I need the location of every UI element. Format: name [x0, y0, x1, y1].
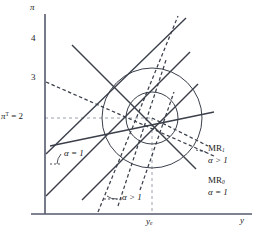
mr0-line: [72, 45, 196, 169]
figure-canvas: π 4 3 πT = 2 ye y α = 1 α > 1 MR1 α > 1 …: [0, 0, 256, 231]
mr0-subscript: 0: [222, 179, 225, 185]
pi-target-label: πT = 2: [1, 112, 23, 121]
mr0-label: MR0: [208, 176, 225, 186]
mr1-subscript: 1: [222, 147, 225, 153]
pc-mid: [46, 18, 186, 154]
mr0-condition: α = 1: [208, 188, 228, 197]
mr1-name: MR: [208, 143, 222, 153]
mr0-name: MR: [208, 175, 222, 185]
mr1-condition: α > 1: [208, 156, 228, 165]
alpha-eq-1-annotation: α = 1: [64, 149, 84, 158]
ye-subscript: e: [150, 220, 152, 226]
x-tick-ye: ye: [146, 217, 152, 227]
ad-line: [50, 112, 214, 146]
pi-axis-label: π: [30, 3, 35, 12]
mr1-label: MR1: [208, 144, 225, 154]
pc-low-1: [46, 52, 190, 196]
alpha-eq-1-text: α = 1: [64, 148, 84, 158]
y-axis-label: y: [240, 216, 244, 225]
y-tick-3: 3: [31, 73, 36, 82]
alpha-gt-1-text: α > 1: [122, 192, 142, 202]
pi-target-value: = 2: [9, 111, 23, 121]
angle-arc-alpha-eq-1: [57, 154, 61, 164]
y-tick-4: 4: [31, 34, 36, 43]
alpha-gt-1-annotation: α > 1: [122, 193, 142, 202]
